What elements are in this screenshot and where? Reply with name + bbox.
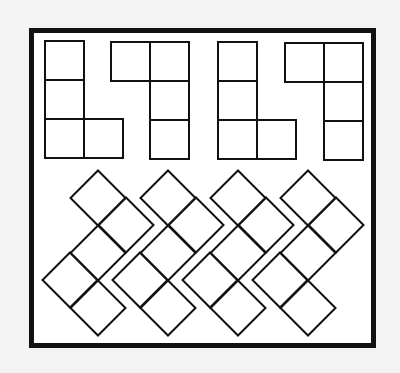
puzzle-diagram bbox=[0, 0, 400, 373]
puzzle-frame bbox=[32, 31, 374, 346]
puzzle-canvas bbox=[0, 0, 400, 373]
